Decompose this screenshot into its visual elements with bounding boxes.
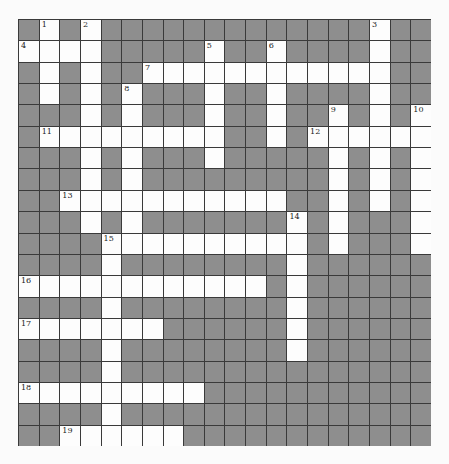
crossword-cell[interactable] <box>122 148 142 168</box>
crossword-cell[interactable] <box>40 41 60 61</box>
crossword-cell[interactable] <box>81 169 101 189</box>
crossword-cell[interactable] <box>81 383 101 403</box>
crossword-cell[interactable] <box>205 276 225 296</box>
crossword-cell[interactable] <box>287 298 307 318</box>
crossword-cell[interactable] <box>60 41 80 61</box>
crossword-cell[interactable] <box>329 63 349 83</box>
crossword-cell[interactable]: 7 <box>143 63 163 83</box>
crossword-cell[interactable] <box>391 127 411 147</box>
crossword-cell[interactable] <box>81 191 101 211</box>
crossword-cell[interactable] <box>287 319 307 339</box>
crossword-cell[interactable]: 10 <box>411 105 431 125</box>
crossword-cell[interactable] <box>122 234 142 254</box>
crossword-cell[interactable] <box>205 127 225 147</box>
crossword-cell[interactable]: 2 <box>81 20 101 40</box>
crossword-cell[interactable] <box>164 426 184 446</box>
crossword-cell[interactable] <box>81 276 101 296</box>
crossword-cell[interactable] <box>122 169 142 189</box>
crossword-cell[interactable] <box>122 276 142 296</box>
crossword-cell[interactable] <box>122 426 142 446</box>
crossword-cell[interactable] <box>329 169 349 189</box>
crossword-cell[interactable] <box>267 84 287 104</box>
crossword-cell[interactable] <box>122 127 142 147</box>
crossword-cell[interactable] <box>349 127 369 147</box>
crossword-cell[interactable] <box>411 212 431 232</box>
crossword-cell[interactable] <box>102 404 122 424</box>
crossword-cell[interactable]: 17 <box>19 319 39 339</box>
crossword-cell[interactable] <box>287 255 307 275</box>
crossword-cell[interactable] <box>40 84 60 104</box>
crossword-cell[interactable]: 3 <box>370 20 390 40</box>
crossword-cell[interactable] <box>102 127 122 147</box>
crossword-cell[interactable]: 14 <box>287 212 307 232</box>
crossword-cell[interactable] <box>102 340 122 360</box>
crossword-cell[interactable] <box>143 191 163 211</box>
crossword-cell[interactable] <box>370 148 390 168</box>
crossword-cell[interactable] <box>164 383 184 403</box>
crossword-cell[interactable] <box>205 84 225 104</box>
crossword-cell[interactable]: 5 <box>205 41 225 61</box>
crossword-cell[interactable] <box>143 234 163 254</box>
crossword-cell[interactable] <box>370 63 390 83</box>
crossword-cell[interactable] <box>143 276 163 296</box>
crossword-cell[interactable] <box>184 127 204 147</box>
crossword-cell[interactable] <box>370 41 390 61</box>
crossword-cell[interactable] <box>205 105 225 125</box>
crossword-cell[interactable] <box>246 234 266 254</box>
crossword-cell[interactable] <box>205 148 225 168</box>
crossword-cell[interactable] <box>164 127 184 147</box>
crossword-cell[interactable] <box>287 234 307 254</box>
crossword-cell[interactable] <box>102 362 122 382</box>
crossword-cell[interactable] <box>205 191 225 211</box>
crossword-cell[interactable] <box>143 319 163 339</box>
crossword-cell[interactable]: 6 <box>267 41 287 61</box>
crossword-cell[interactable] <box>102 426 122 446</box>
crossword-cell[interactable] <box>60 127 80 147</box>
crossword-cell[interactable] <box>81 212 101 232</box>
crossword-cell[interactable] <box>143 426 163 446</box>
crossword-cell[interactable] <box>184 383 204 403</box>
crossword-cell[interactable] <box>329 148 349 168</box>
crossword-cell[interactable] <box>246 276 266 296</box>
crossword-cell[interactable] <box>225 276 245 296</box>
crossword-cell[interactable] <box>122 383 142 403</box>
crossword-cell[interactable] <box>225 234 245 254</box>
crossword-cell[interactable] <box>164 276 184 296</box>
crossword-cell[interactable] <box>411 234 431 254</box>
crossword-cell[interactable] <box>246 191 266 211</box>
crossword-cell[interactable]: 18 <box>19 383 39 403</box>
crossword-cell[interactable] <box>287 340 307 360</box>
crossword-cell[interactable] <box>81 84 101 104</box>
crossword-cell[interactable] <box>81 319 101 339</box>
crossword-cell[interactable] <box>411 191 431 211</box>
crossword-cell[interactable] <box>205 63 225 83</box>
crossword-cell[interactable] <box>287 63 307 83</box>
crossword-cell[interactable] <box>370 191 390 211</box>
crossword-cell[interactable] <box>370 127 390 147</box>
crossword-cell[interactable]: 4 <box>19 41 39 61</box>
crossword-cell[interactable] <box>329 127 349 147</box>
crossword-cell[interactable] <box>81 127 101 147</box>
crossword-cell[interactable] <box>246 63 266 83</box>
crossword-cell[interactable] <box>122 319 142 339</box>
crossword-cell[interactable]: 12 <box>308 127 328 147</box>
crossword-cell[interactable] <box>164 234 184 254</box>
crossword-cell[interactable] <box>184 191 204 211</box>
crossword-cell[interactable] <box>267 234 287 254</box>
crossword-cell[interactable] <box>267 63 287 83</box>
crossword-cell[interactable] <box>60 276 80 296</box>
crossword-cell[interactable] <box>40 319 60 339</box>
crossword-cell[interactable] <box>164 191 184 211</box>
crossword-cell[interactable] <box>184 276 204 296</box>
crossword-cell[interactable] <box>102 255 122 275</box>
crossword-cell[interactable] <box>40 383 60 403</box>
crossword-cell[interactable]: 9 <box>329 105 349 125</box>
crossword-cell[interactable] <box>40 276 60 296</box>
crossword-cell[interactable] <box>370 84 390 104</box>
crossword-cell[interactable]: 19 <box>60 426 80 446</box>
crossword-cell[interactable] <box>184 234 204 254</box>
crossword-cell[interactable] <box>329 234 349 254</box>
crossword-cell[interactable] <box>164 63 184 83</box>
crossword-cell[interactable] <box>184 63 204 83</box>
crossword-cell[interactable] <box>267 191 287 211</box>
